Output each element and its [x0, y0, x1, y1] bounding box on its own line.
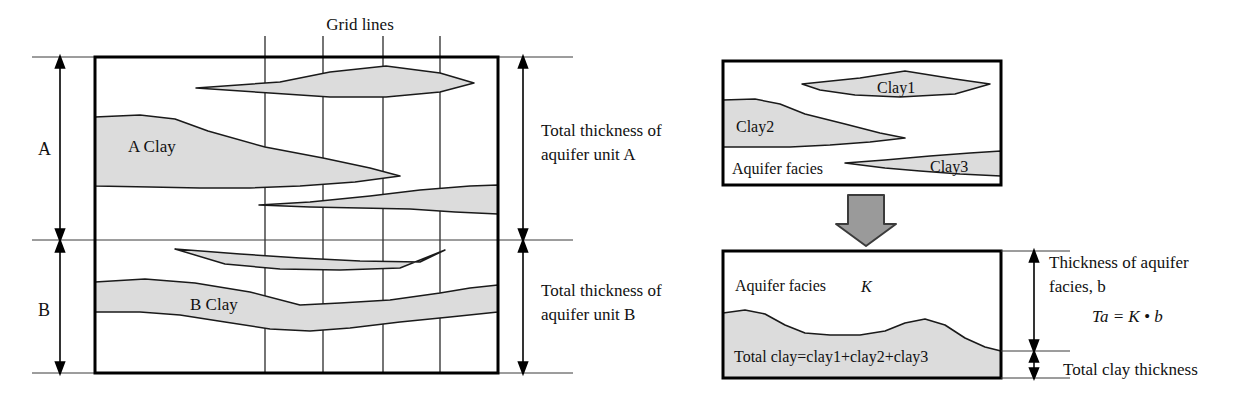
total-clay-equation-label: Total clay=clay1+clay2+clay3	[734, 348, 928, 366]
figure-root: Grid lines A B A	[0, 0, 1245, 401]
thickness-label-line2: facies, b	[1049, 277, 1106, 296]
canvas-background	[0, 0, 1245, 401]
dim-label-a-line2: aquifer unit A	[541, 145, 636, 164]
aquifer-upscaling-diagram: Grid lines A B A	[0, 0, 1245, 401]
clay1-label: Clay1	[877, 79, 915, 97]
dim-label-b-line2: aquifer unit B	[541, 305, 635, 324]
unit-b-label: B	[38, 300, 50, 320]
clay2-label: Clay2	[736, 118, 774, 136]
thickness-label-line1: Thickness of aquifer	[1049, 253, 1189, 272]
unit-a-label: A	[38, 139, 51, 159]
clay3-label: Clay3	[930, 158, 968, 176]
top-box-aquifer-facies-label: Aquifer facies	[732, 160, 823, 178]
bottom-box-aquifer-facies-label: Aquifer facies	[735, 277, 826, 295]
k-symbol-label: K	[860, 278, 873, 295]
total-clay-thickness-label: Total clay thickness	[1063, 360, 1198, 379]
transmissivity-formula: Ta = K • b	[1092, 307, 1163, 326]
dim-label-b-line1: Total thickness of	[541, 281, 662, 300]
a-clay-label: A Clay	[128, 137, 176, 156]
grid-lines-label: Grid lines	[326, 15, 394, 34]
dim-label-a-line1: Total thickness of	[541, 121, 662, 140]
b-clay-label: B Clay	[190, 295, 238, 314]
